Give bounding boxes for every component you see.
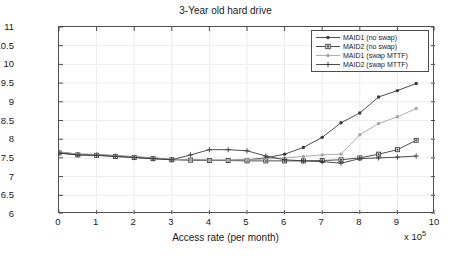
legend-label: MAID1 (no swap) xyxy=(341,34,397,41)
y-axis-tick: 9.5 xyxy=(0,77,14,88)
x-axis-tick: 6 xyxy=(269,216,299,227)
x-axis-tick: 7 xyxy=(306,216,336,227)
y-axis-tick: 9 xyxy=(0,95,14,106)
y-axis-tick: 6.5 xyxy=(0,189,14,200)
y-axis-tick: 7.5 xyxy=(0,151,14,162)
x-axis-tick: 4 xyxy=(193,216,223,227)
y-axis-tick: 8.5 xyxy=(0,114,14,125)
y-axis-tick: 11 xyxy=(0,21,14,32)
legend-label: MAID2 (no swap) xyxy=(341,43,397,50)
legend-item: MAID2 (no swap) xyxy=(315,42,425,51)
x-axis-tick: 0 xyxy=(43,216,73,227)
legend-label: MAID2 (swap MTTF) xyxy=(341,61,408,68)
legend-marker-dot xyxy=(315,33,341,42)
legend-marker-plus xyxy=(315,60,341,69)
y-axis-tick: 10.5 xyxy=(0,39,14,50)
legend-marker-square xyxy=(315,42,341,51)
x-axis-exponent-power: 5 xyxy=(422,230,426,237)
x-axis-tick: 2 xyxy=(118,216,148,227)
x-axis-tick: 9 xyxy=(381,216,411,227)
x-axis-tick: 1 xyxy=(81,216,111,227)
legend-label: MAID1 (swap MTTF) xyxy=(341,52,408,59)
legend-item: MAID1 (no swap) xyxy=(315,33,425,42)
chart-legend: MAID1 (no swap)MAID2 (no swap)MAID1 (swa… xyxy=(311,30,429,72)
x-axis-tick: 8 xyxy=(344,216,374,227)
x-axis-tick: 3 xyxy=(156,216,186,227)
legend-item: MAID1 (swap MTTF) xyxy=(315,51,425,60)
legend-item: MAID2 (swap MTTF) xyxy=(315,60,425,69)
y-axis-tick: 6 xyxy=(0,208,14,219)
x-axis-tick: 10 xyxy=(419,216,449,227)
legend-marker-dot-light xyxy=(315,51,341,60)
chart-title: 3-Year old hard drive xyxy=(0,5,451,16)
y-axis-tick: 7 xyxy=(0,170,14,181)
figure: 3-Year old hard drive AFR (%) Access rat… xyxy=(0,0,451,256)
y-axis-tick: 8 xyxy=(0,133,14,144)
x-axis-tick: 5 xyxy=(231,216,261,227)
x-axis-label: Access rate (per month) xyxy=(0,232,451,243)
x-axis-exponent-base: x 10 xyxy=(404,231,422,242)
x-axis-exponent: x 105 xyxy=(404,230,426,242)
y-axis-tick: 10 xyxy=(0,58,14,69)
